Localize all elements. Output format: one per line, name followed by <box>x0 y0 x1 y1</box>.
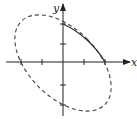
solid-arc <box>63 24 105 62</box>
dashed-ellipse <box>0 0 129 119</box>
y-axis-label: y <box>52 2 60 15</box>
ellipse-diagram: x y <box>0 0 137 119</box>
x-axis-label: x <box>131 56 137 69</box>
